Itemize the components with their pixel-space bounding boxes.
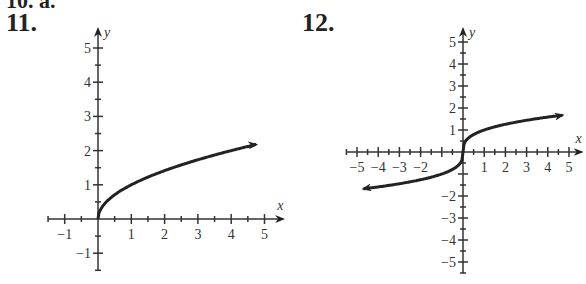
function-curve	[98, 145, 256, 220]
y-tick-label: −1	[76, 246, 91, 261]
y-tick-label: 5	[449, 35, 456, 50]
y-tick-label: −5	[441, 255, 456, 270]
x-axis-label: x	[276, 198, 284, 213]
graph-11: −112345−112345xy	[48, 25, 284, 270]
y-tick-label: 2	[84, 144, 91, 159]
x-tick-label: 5	[566, 160, 573, 175]
y-tick-label: 4	[449, 57, 456, 72]
x-tick-label: 4	[544, 160, 551, 175]
x-tick-label: 2	[502, 160, 509, 175]
x-tick-label: 2	[161, 227, 168, 242]
y-tick-label: 3	[449, 79, 456, 94]
x-tick-label: 1	[481, 160, 488, 175]
x-tick-label: 5	[261, 227, 268, 242]
y-tick-label: 2	[449, 101, 456, 116]
x-tick-label: −2	[413, 160, 428, 175]
x-tick-label: 3	[194, 227, 201, 242]
y-tick-label: 4	[84, 75, 91, 90]
x-tick-label: −3	[392, 160, 407, 175]
y-tick-label: −4	[441, 233, 456, 248]
x-tick-label: −1	[57, 227, 72, 242]
x-axis-label: x	[575, 131, 583, 146]
y-tick-label: −2	[441, 189, 456, 204]
y-tick-label: 1	[449, 123, 456, 138]
y-tick-label: 3	[84, 109, 91, 124]
x-tick-label: 3	[523, 160, 530, 175]
y-axis-label: y	[467, 25, 476, 40]
y-tick-label: 1	[84, 178, 91, 193]
graph-12: −5−4−3−212345−5−4−3−212345xy	[346, 25, 582, 273]
y-axis-label: y	[102, 25, 111, 40]
x-tick-label: −4	[371, 160, 386, 175]
graphs: −112345−112345xy−5−4−3−212345−5−4−3−2123…	[0, 0, 586, 284]
x-tick-label: 1	[128, 227, 135, 242]
y-tick-label: −3	[441, 211, 456, 226]
x-tick-label: 4	[228, 227, 235, 242]
x-tick-label: −5	[350, 160, 365, 175]
y-tick-label: 5	[84, 41, 91, 56]
